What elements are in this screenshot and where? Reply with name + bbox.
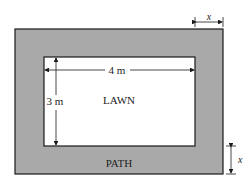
lawn-label: LAWN xyxy=(103,94,135,106)
height-label: 3 m xyxy=(47,95,64,107)
side-x-label: x xyxy=(237,154,243,165)
path-label: PATH xyxy=(106,157,133,169)
width-label: 4 m xyxy=(109,64,126,76)
lawn-path-diagram: 4 m 3 m LAWN PATH x x xyxy=(0,0,245,181)
top-x-label: x xyxy=(206,11,212,22)
